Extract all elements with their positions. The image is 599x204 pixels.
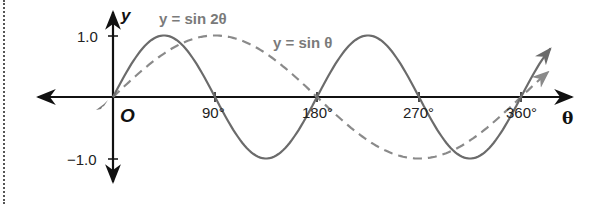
x-tick-label-180: 180°	[302, 104, 333, 121]
curve-left-arrowheads	[96, 100, 108, 110]
series-label-sin-2theta: y = sin 2θ	[159, 10, 227, 27]
y-axis-label: y	[120, 6, 132, 25]
x-axis-label: θ	[562, 108, 573, 128]
origin-label: O	[120, 105, 135, 126]
series-label-sin-theta: y = sin θ	[273, 34, 332, 51]
x-tick-label-360: 360°	[506, 104, 537, 121]
chart-stage: y θ O 1.0 −1.0 90° 180° 270° 360° y = si…	[0, 0, 599, 204]
sine-graph: y θ O 1.0 −1.0 90° 180° 270° 360° y = si…	[0, 0, 599, 204]
y-tick-label-pos: 1.0	[77, 28, 98, 45]
x-tick-label-90: 90°	[202, 104, 225, 121]
x-tick-label-270: 270°	[403, 104, 434, 121]
page-margin-dotted-border	[3, 0, 5, 204]
y-tick-label-neg: −1.0	[67, 151, 97, 168]
